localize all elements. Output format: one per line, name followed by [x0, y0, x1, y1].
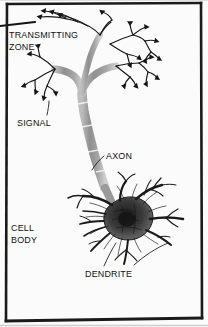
border-top: [7, 3, 201, 4]
label-transmitting-zone: TRANSMITTING ZONE: [9, 29, 78, 52]
label-dendrite: DENDRITE: [85, 268, 132, 280]
neuron-diagram: TRANSMITTING ZONE SIGNAL AXON CELL BODY …: [0, 0, 208, 327]
label-axon: AXON: [106, 150, 132, 162]
label-signal: SIGNAL: [17, 117, 51, 129]
border-left: [6, 4, 7, 321]
label-cell-body: CELL BODY: [11, 222, 37, 245]
border-right: [201, 3, 202, 318]
